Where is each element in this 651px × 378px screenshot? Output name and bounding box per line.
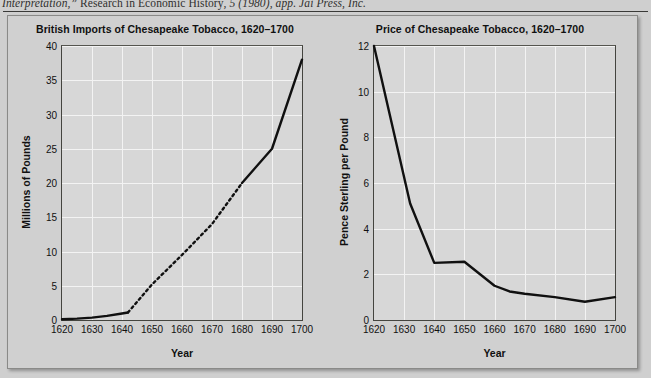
x-tick-label-price: 1670: [514, 324, 536, 335]
x-tick-label-price: 1660: [483, 324, 505, 335]
x-tick-label-imports: 1630: [81, 324, 103, 335]
gridline-vertical: [122, 46, 123, 320]
x-tick-label-price: 1650: [453, 324, 475, 335]
chart-title-price: Price of Chesapeake Tobacco, 1620–1700: [323, 23, 637, 35]
x-tick-label-imports: 1660: [171, 324, 193, 335]
x-tick-label-price: 1680: [544, 324, 566, 335]
gridline-vertical: [242, 46, 243, 320]
x-tick-label-price: 1690: [574, 324, 596, 335]
x-tick-label-imports: 1680: [231, 324, 253, 335]
gridline-vertical: [212, 46, 213, 320]
y-tick-label-price: 12: [358, 41, 369, 52]
y-tick-label-price: 6: [363, 178, 369, 189]
gridline-vertical: [525, 46, 526, 320]
figure-frame: British Imports of Chesapeake Tobacco, 1…: [7, 15, 638, 369]
gridline-vertical: [434, 46, 435, 320]
horizontal-rule: [3, 11, 648, 12]
y-tick-label-imports: 5: [51, 280, 57, 291]
gridline-vertical: [404, 46, 405, 320]
gridline-vertical: [272, 46, 273, 320]
x-axis-label-price: Year: [373, 347, 616, 359]
y-axis-label-imports: Millions of Pounds: [20, 102, 32, 262]
chart-panel-price: Price of Chesapeake Tobacco, 1620–1700 P…: [323, 16, 637, 368]
x-tick-label-imports: 1700: [291, 324, 313, 335]
caption-italic-part-1: Interpretation,”: [2, 0, 80, 9]
gridline-vertical: [152, 46, 153, 320]
series-path: [62, 312, 128, 319]
gridline-vertical: [182, 46, 183, 320]
gridline-vertical: [464, 46, 465, 320]
y-axis-label-price: Pence Sterling per Pound: [338, 92, 350, 272]
x-tick-label-imports: 1650: [141, 324, 163, 335]
y-tick-label-price: 2: [363, 269, 369, 280]
gridline-vertical: [585, 46, 586, 320]
y-tick-label-imports: 10: [46, 246, 57, 257]
gridline-vertical: [495, 46, 496, 320]
gridline-vertical: [555, 46, 556, 320]
caption-journal-name: Research in Economic History: [80, 0, 224, 9]
plot-area-imports: 0510152025303540162016301640165016601670…: [61, 45, 303, 321]
chart-panels: British Imports of Chesapeake Tobacco, 1…: [8, 16, 637, 368]
y-tick-label-price: 4: [363, 223, 369, 234]
series-path: [128, 183, 242, 312]
x-tick-label-imports: 1640: [111, 324, 133, 335]
x-axis-label-imports: Year: [61, 347, 303, 359]
y-tick-label-price: 10: [358, 86, 369, 97]
x-tick-label-price: 1620: [363, 324, 385, 335]
x-tick-label-price: 1640: [423, 324, 445, 335]
y-tick-label-imports: 20: [46, 178, 57, 189]
source-caption: Interpretation,” Research in Economic Hi…: [2, 0, 647, 9]
y-tick-label-imports: 25: [46, 143, 57, 154]
y-tick-label-imports: 15: [46, 212, 57, 223]
y-tick-label-imports: 40: [46, 41, 57, 52]
x-tick-label-imports: 1620: [51, 324, 73, 335]
x-tick-label-price: 1700: [604, 324, 626, 335]
y-tick-label-imports: 30: [46, 109, 57, 120]
chart-panel-imports: British Imports of Chesapeake Tobacco, 1…: [8, 16, 322, 368]
x-tick-label-price: 1630: [393, 324, 415, 335]
y-tick-label-imports: 35: [46, 75, 57, 86]
y-tick-label-price: 8: [363, 132, 369, 143]
x-tick-label-imports: 1690: [261, 324, 283, 335]
plot-area-price: 0246810121620163016401650166016701680169…: [373, 45, 616, 321]
x-tick-label-imports: 1670: [201, 324, 223, 335]
gridline-vertical: [92, 46, 93, 320]
caption-italic-part-2: , 5 (1980), app. Jai Press, Inc.: [224, 0, 366, 9]
chart-title-imports: British Imports of Chesapeake Tobacco, 1…: [8, 23, 322, 35]
